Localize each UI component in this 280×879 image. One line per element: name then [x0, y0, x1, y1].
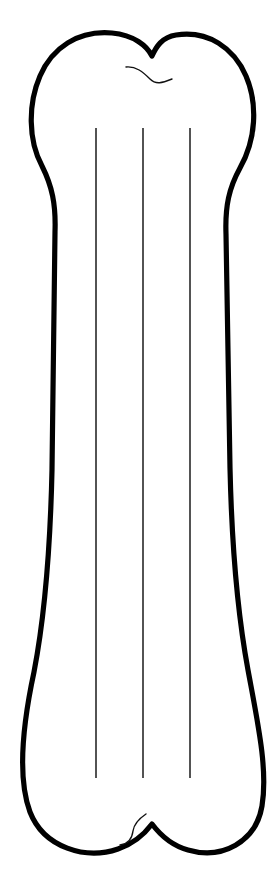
- artwork-canvas: [0, 0, 280, 879]
- bone-illustration: [0, 0, 280, 879]
